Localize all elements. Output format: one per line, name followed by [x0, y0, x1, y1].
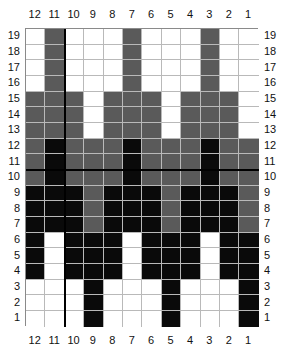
grid-cell-r2-c2[interactable]	[220, 295, 239, 311]
grid-cell-r11-c2[interactable]	[220, 154, 239, 170]
grid-cell-r10-c9[interactable]	[84, 170, 103, 186]
grid-cell-r3-c9[interactable]	[84, 280, 103, 296]
grid-cell-r15-c2[interactable]	[220, 92, 239, 108]
grid-cell-r5-c9[interactable]	[84, 248, 103, 264]
grid-cell-r11-c4[interactable]	[181, 154, 200, 170]
grid-cell-r14-c3[interactable]	[201, 107, 220, 123]
grid-cell-r3-c3[interactable]	[201, 280, 220, 296]
grid-cell-r9-c11[interactable]	[45, 186, 64, 202]
grid-cell-r8-c7[interactable]	[123, 201, 142, 217]
grid-cell-r7-c12[interactable]	[26, 217, 45, 233]
grid-cell-r16-c11[interactable]	[45, 76, 64, 92]
grid-cell-r19-c11[interactable]	[45, 29, 64, 45]
grid-cell-r2-c5[interactable]	[162, 295, 181, 311]
grid-cell-r2-c12[interactable]	[26, 295, 45, 311]
grid-cell-r15-c1[interactable]	[239, 92, 258, 108]
grid-cell-r17-c5[interactable]	[162, 60, 181, 76]
grid-cell-r12-c11[interactable]	[45, 139, 64, 155]
grid-cell-r8-c11[interactable]	[45, 201, 64, 217]
grid-cell-r6-c12[interactable]	[26, 233, 45, 249]
grid-cell-r7-c10[interactable]	[65, 217, 84, 233]
grid-cell-r18-c9[interactable]	[84, 45, 103, 61]
grid-cell-r1-c11[interactable]	[45, 311, 64, 327]
grid-cell-r14-c6[interactable]	[142, 107, 161, 123]
grid-cell-r10-c2[interactable]	[220, 170, 239, 186]
grid-cell-r6-c6[interactable]	[142, 233, 161, 249]
grid-cell-r7-c4[interactable]	[181, 217, 200, 233]
grid-cell-r15-c10[interactable]	[65, 92, 84, 108]
grid-cell-r16-c5[interactable]	[162, 76, 181, 92]
grid-cell-r9-c8[interactable]	[104, 186, 123, 202]
grid-cell-r3-c6[interactable]	[142, 280, 161, 296]
grid-cell-r14-c2[interactable]	[220, 107, 239, 123]
grid-cell-r4-c12[interactable]	[26, 264, 45, 280]
grid-cell-r16-c2[interactable]	[220, 76, 239, 92]
grid-cell-r19-c7[interactable]	[123, 29, 142, 45]
grid-cell-r15-c5[interactable]	[162, 92, 181, 108]
grid-cell-r2-c8[interactable]	[104, 295, 123, 311]
grid-cell-r18-c11[interactable]	[45, 45, 64, 61]
grid-cell-r2-c9[interactable]	[84, 295, 103, 311]
grid-cell-r14-c9[interactable]	[84, 107, 103, 123]
grid-cell-r12-c12[interactable]	[26, 139, 45, 155]
grid-cell-r11-c9[interactable]	[84, 154, 103, 170]
grid-cell-r14-c11[interactable]	[45, 107, 64, 123]
grid-cell-r10-c4[interactable]	[181, 170, 200, 186]
grid-cell-r13-c12[interactable]	[26, 123, 45, 139]
grid-cell-r14-c1[interactable]	[239, 107, 258, 123]
grid-cell-r15-c3[interactable]	[201, 92, 220, 108]
grid-cell-r6-c8[interactable]	[104, 233, 123, 249]
grid-cell-r12-c2[interactable]	[220, 139, 239, 155]
grid-cell-r19-c8[interactable]	[104, 29, 123, 45]
grid-cell-r17-c3[interactable]	[201, 60, 220, 76]
grid-cell-r17-c6[interactable]	[142, 60, 161, 76]
grid-cell-r4-c3[interactable]	[201, 264, 220, 280]
grid-cell-r6-c4[interactable]	[181, 233, 200, 249]
grid-cell-r18-c4[interactable]	[181, 45, 200, 61]
grid-cell-r6-c3[interactable]	[201, 233, 220, 249]
grid-cell-r7-c2[interactable]	[220, 217, 239, 233]
grid-cell-r19-c4[interactable]	[181, 29, 200, 45]
grid-cell-r12-c10[interactable]	[65, 139, 84, 155]
grid-cell-r16-c8[interactable]	[104, 76, 123, 92]
grid-cell-r4-c8[interactable]	[104, 264, 123, 280]
grid-cell-r17-c1[interactable]	[239, 60, 258, 76]
grid-cell-r9-c6[interactable]	[142, 186, 161, 202]
grid-cell-r19-c12[interactable]	[26, 29, 45, 45]
grid-cell-r13-c2[interactable]	[220, 123, 239, 139]
grid-cell-r8-c6[interactable]	[142, 201, 161, 217]
grid-cell-r5-c5[interactable]	[162, 248, 181, 264]
grid-cell-r11-c10[interactable]	[65, 154, 84, 170]
grid-cell-r17-c12[interactable]	[26, 60, 45, 76]
grid-cell-r12-c5[interactable]	[162, 139, 181, 155]
grid-cell-r10-c12[interactable]	[26, 170, 45, 186]
grid-cell-r6-c11[interactable]	[45, 233, 64, 249]
grid-cell-r2-c10[interactable]	[65, 295, 84, 311]
grid-cell-r3-c8[interactable]	[104, 280, 123, 296]
grid-cell-r15-c9[interactable]	[84, 92, 103, 108]
grid-cell-r7-c7[interactable]	[123, 217, 142, 233]
grid-cell-r14-c12[interactable]	[26, 107, 45, 123]
grid-cell-r2-c3[interactable]	[201, 295, 220, 311]
grid-cell-r7-c5[interactable]	[162, 217, 181, 233]
grid-cell-r13-c8[interactable]	[104, 123, 123, 139]
grid-cell-r19-c1[interactable]	[239, 29, 258, 45]
grid-cell-r12-c7[interactable]	[123, 139, 142, 155]
grid-cell-r19-c3[interactable]	[201, 29, 220, 45]
grid-cell-r3-c5[interactable]	[162, 280, 181, 296]
grid-cell-r13-c5[interactable]	[162, 123, 181, 139]
grid-cell-r2-c4[interactable]	[181, 295, 200, 311]
grid-cell-r4-c6[interactable]	[142, 264, 161, 280]
grid-cell-r15-c12[interactable]	[26, 92, 45, 108]
grid-cell-r17-c11[interactable]	[45, 60, 64, 76]
grid-cell-r16-c7[interactable]	[123, 76, 142, 92]
grid-cell-r7-c1[interactable]	[239, 217, 258, 233]
grid-cell-r3-c11[interactable]	[45, 280, 64, 296]
grid-cell-r16-c3[interactable]	[201, 76, 220, 92]
grid-cell-r6-c5[interactable]	[162, 233, 181, 249]
grid-cell-r6-c7[interactable]	[123, 233, 142, 249]
grid-cell-r16-c1[interactable]	[239, 76, 258, 92]
grid-cell-r11-c3[interactable]	[201, 154, 220, 170]
grid-cell-r17-c8[interactable]	[104, 60, 123, 76]
grid-cell-r11-c12[interactable]	[26, 154, 45, 170]
